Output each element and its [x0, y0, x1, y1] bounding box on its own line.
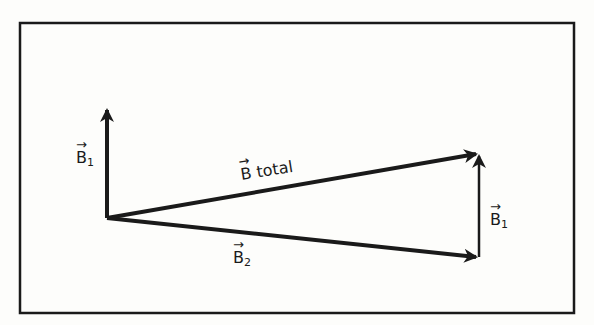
vector-arrow-icon: →	[238, 154, 251, 169]
frame-border	[20, 23, 574, 313]
label-subscript: 2	[244, 256, 251, 269]
label-b1-left: →B1	[76, 150, 94, 168]
label-b2: →B2	[233, 250, 251, 268]
b2-arrow	[107, 218, 476, 257]
vector-arrow-icon: →	[233, 238, 244, 251]
vector-arrow-icon: →	[490, 200, 501, 213]
vector-arrow-icon: →	[76, 138, 87, 151]
label-b1-right: →B1	[490, 212, 508, 230]
label-subscript: 1	[501, 218, 508, 231]
label-subscript: 1	[87, 156, 94, 169]
